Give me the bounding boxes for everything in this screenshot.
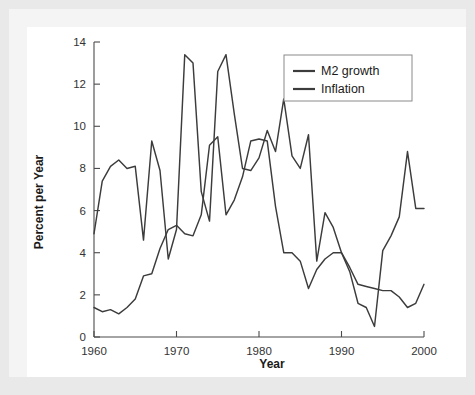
y-tick-label: 14 [73, 36, 86, 48]
y-tick-label: 6 [80, 205, 86, 217]
figure-outer-frame: 02468101214 19601970198019902000 Percent… [0, 0, 475, 395]
x-tick-label: 2000 [411, 345, 437, 357]
x-tick-label: 1980 [246, 345, 272, 357]
y-axis-title: Percent per Year [32, 154, 46, 249]
y-tick-label: 10 [73, 120, 86, 132]
line-chart: 02468101214 19601970198019902000 Percent… [27, 27, 466, 377]
x-tick-label: 1960 [81, 345, 107, 357]
x-tick-label: 1990 [329, 345, 355, 357]
chart-canvas: 02468101214 19601970198019902000 Percent… [27, 27, 466, 377]
series-line-inflation [94, 137, 424, 314]
figure-inner-border: 02468101214 19601970198019902000 Percent… [9, 9, 466, 377]
y-axis-ticks: 02468101214 [73, 36, 100, 343]
y-tick-label: 8 [80, 162, 86, 174]
legend-label-inflation: Inflation [321, 82, 365, 96]
legend-label-m2-growth: M2 growth [321, 64, 379, 78]
x-tick-label: 1970 [164, 345, 190, 357]
x-axis-title: Year [259, 357, 285, 371]
x-axis-ticks: 19601970198019902000 [81, 331, 437, 357]
y-tick-label: 0 [80, 331, 86, 343]
chart-legend[interactable]: M2 growth Inflation [284, 55, 412, 101]
y-tick-label: 2 [80, 289, 86, 301]
y-tick-label: 4 [80, 247, 87, 259]
y-tick-label: 12 [73, 78, 86, 90]
